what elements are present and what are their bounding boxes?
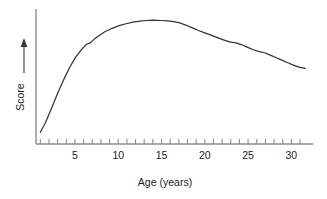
score-curve: [40, 20, 305, 132]
y-axis-arrow-group: [21, 38, 28, 73]
x-axis-tick-label: 30: [286, 149, 298, 161]
x-axis-title: Age (years): [138, 176, 192, 188]
chart-figure: 51015202530 Score Age (years): [0, 0, 327, 199]
x-axis-tick-labels: 51015202530: [72, 149, 297, 161]
data-series-group: [40, 20, 305, 132]
x-axis-tick-label: 5: [72, 149, 78, 161]
y-axis-title: Score: [14, 83, 26, 111]
x-axis-group: 51015202530: [36, 139, 313, 161]
x-axis-tick-label: 20: [199, 149, 211, 161]
y-axis-arrow-head: [21, 38, 28, 47]
line-chart: 51015202530 Score Age (years): [0, 0, 327, 199]
x-axis-tick-label: 25: [242, 149, 254, 161]
x-axis-ticks: [40, 139, 300, 144]
x-axis-tick-label: 15: [156, 149, 168, 161]
x-axis-tick-label: 10: [112, 149, 124, 161]
